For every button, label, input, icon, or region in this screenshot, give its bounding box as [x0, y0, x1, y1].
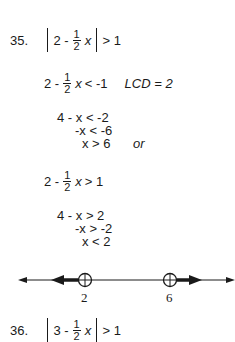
fraction-numerator: 1 [73, 29, 81, 41]
expression-rhs: > 1 [102, 33, 120, 48]
or-connector: or [133, 136, 145, 151]
case2-line4: x < 2 [82, 234, 111, 249]
number-line-graphic [18, 268, 235, 292]
expression-rhs: > 1 [85, 174, 103, 189]
number-line: 2 6 [18, 268, 235, 308]
absolute-value-bar-left [47, 28, 48, 52]
expression-left: 2 - [44, 76, 59, 91]
number-line-label-2: 2 [81, 290, 88, 306]
expression-rhs: > 1 [102, 323, 120, 338]
expression-left: 2 - [44, 174, 59, 189]
fraction-numerator: 1 [73, 319, 81, 331]
fraction-denominator: 2 [63, 182, 71, 193]
problem-36-statement: 36. 3 - 1 2 x > 1 [10, 318, 121, 342]
absolute-value-bar-right [96, 28, 97, 52]
expression-left: 3 - [53, 323, 68, 338]
fraction: 1 2 [63, 72, 71, 95]
problem-number: 36. [10, 323, 28, 338]
number-line-label-6: 6 [166, 290, 173, 306]
problem-number: 35. [10, 33, 28, 48]
fraction: 1 2 [73, 29, 81, 52]
variable: x [85, 33, 92, 48]
fraction-denominator: 2 [73, 41, 81, 52]
problem-35-statement: 35. 2 - 1 2 x > 1 [10, 28, 121, 52]
case2-line1: 2 - 1 2 x > 1 [44, 170, 103, 193]
case1-line4: x > 6 [82, 136, 111, 151]
case1-line1: 2 - 1 2 x < -1 LCD = 2 [44, 72, 173, 95]
variable: x [75, 76, 82, 91]
fraction: 1 2 [63, 170, 71, 193]
absolute-value-bar-right [96, 318, 97, 342]
absolute-value-bar-left [47, 318, 48, 342]
expression-left: 2 - [53, 33, 68, 48]
fraction-denominator: 2 [63, 84, 71, 95]
expression-rhs: < -1 [85, 76, 108, 91]
variable: x [85, 323, 92, 338]
fraction-denominator: 2 [73, 331, 81, 342]
lcd-note: LCD = 2 [125, 76, 173, 91]
variable: x [75, 174, 82, 189]
fraction: 1 2 [73, 319, 81, 342]
